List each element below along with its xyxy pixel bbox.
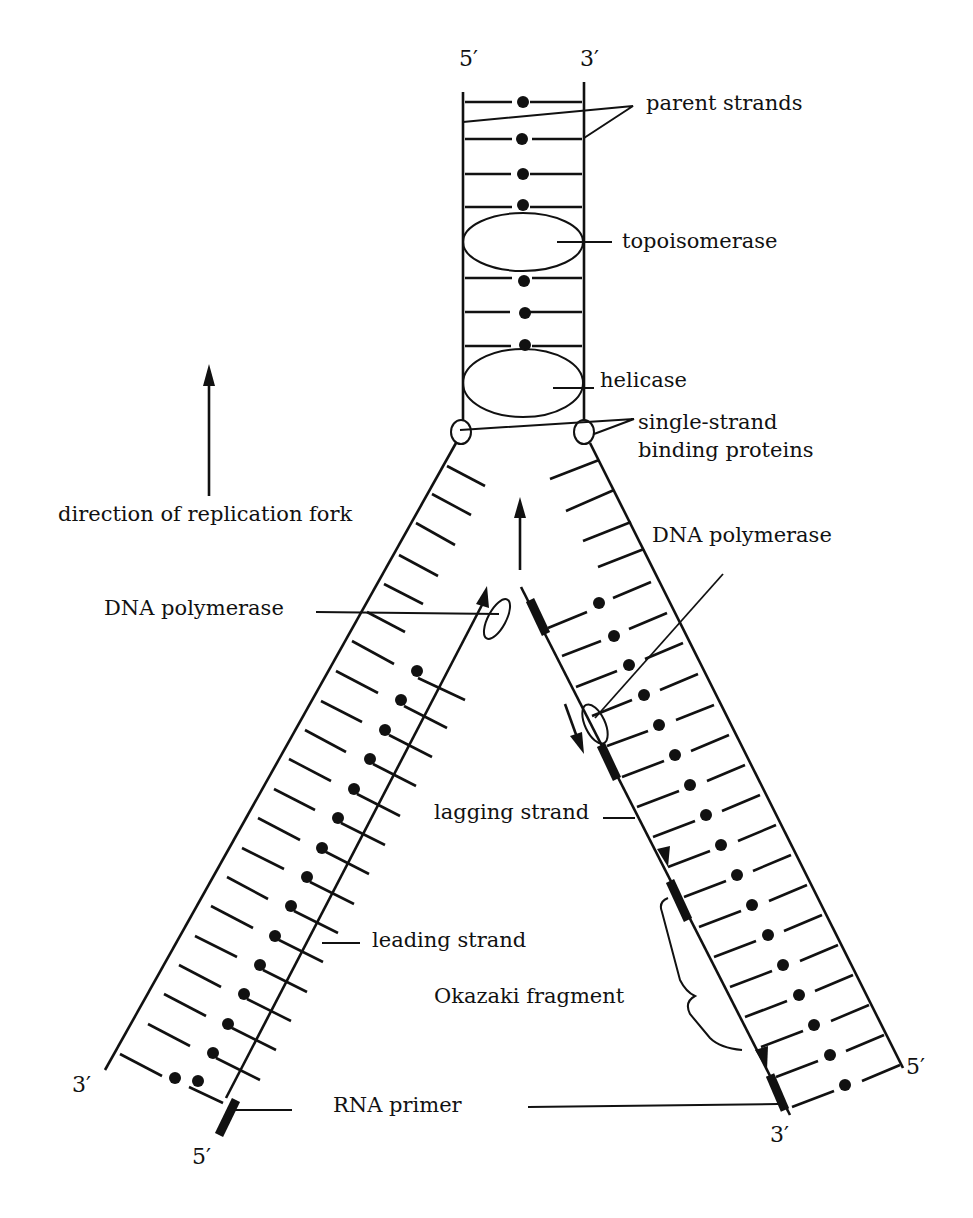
lagging-strand-line <box>521 587 790 1115</box>
label-dna-polymerase-left: DNA polymerase <box>104 598 284 619</box>
end-label-3prime-left: 3′ <box>72 1074 91 1096</box>
label-helicase: helicase <box>600 370 687 391</box>
label-parent-strands: parent strands <box>646 93 803 114</box>
ssb-left <box>451 420 471 444</box>
right-base-dots <box>593 597 851 1091</box>
helicase-shape <box>463 349 583 417</box>
base-dots-top <box>516 96 531 351</box>
end-label-3prime-top: 3′ <box>580 48 599 70</box>
end-label-5prime-top: 5′ <box>459 48 478 70</box>
okazaki-bracket <box>661 898 742 1050</box>
label-direction-of-replication-fork: direction of replication fork <box>58 504 352 525</box>
ssb-pointer <box>460 419 634 434</box>
label-topoisomerase: topoisomerase <box>622 231 777 252</box>
parent-strands-pointer <box>463 106 633 138</box>
right-unpaired-rungs <box>550 460 644 567</box>
end-label-5prime-right: 5′ <box>906 1056 925 1078</box>
left-unpaired-rungs <box>367 466 485 632</box>
end-label-5prime-left: 5′ <box>192 1146 211 1168</box>
left-base-pairs <box>120 641 465 1103</box>
label-dna-polymerase-right: DNA polymerase <box>652 525 832 546</box>
leading-strand-arrowhead <box>476 586 489 608</box>
label-lagging-strand: lagging strand <box>434 802 589 823</box>
leading-strand-line <box>226 603 483 1098</box>
end-label-3prime-right: 3′ <box>770 1124 789 1146</box>
direction-arrow-head <box>203 364 215 386</box>
label-ssb-line1: single-strand <box>638 412 777 433</box>
label-leading-strand: leading strand <box>372 930 526 951</box>
label-rna-primer: RNA primer <box>333 1095 462 1116</box>
label-okazaki-fragment: Okazaki fragment <box>434 986 624 1007</box>
label-ssb-line2: binding proteins <box>638 440 814 461</box>
rna-primer-left <box>219 1100 236 1135</box>
